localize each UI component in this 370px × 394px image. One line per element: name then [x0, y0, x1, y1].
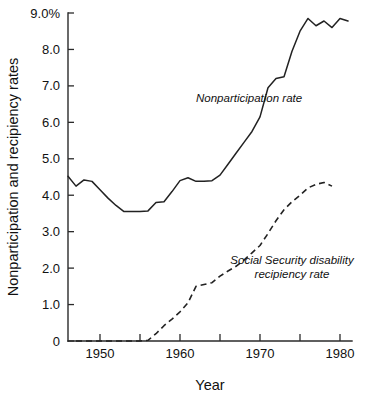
- line-chart-svg: Nonparticipation and recipiency rates Ye…: [0, 0, 370, 394]
- recipiency-rate-label-line2: recipiency rate: [255, 268, 330, 280]
- x-axis-title: Year: [195, 377, 224, 393]
- y-tick-label: 6.0: [42, 115, 60, 130]
- series-nonparticipation-rate: [68, 18, 348, 211]
- y-tick-label: 1.0: [42, 297, 60, 312]
- y-tick-label: 5.0: [42, 151, 60, 166]
- x-axis-tick-labels: 1950196019701980: [86, 346, 355, 361]
- y-tick-label: 7.0: [42, 78, 60, 93]
- x-tick-label: 1960: [166, 346, 195, 361]
- y-axis-tick-labels: 9.0%8.07.06.05.04.03.02.01.00: [30, 6, 60, 349]
- y-tick-label: 0: [53, 334, 60, 349]
- recipiency-rate-label-line1: Social Security disability: [230, 254, 355, 266]
- x-tick-label: 1970: [246, 346, 275, 361]
- x-axis-ticks: [100, 334, 340, 341]
- y-tick-label: 4.0: [42, 188, 60, 203]
- y-tick-label: 3.0: [42, 224, 60, 239]
- y-tick-label: 2.0: [42, 261, 60, 276]
- y-tick-label: 9.0%: [30, 6, 60, 21]
- x-tick-label: 1950: [86, 346, 115, 361]
- y-axis-title: Nonparticipation and recipiency rates: [5, 58, 21, 297]
- y-tick-label: 8.0: [42, 42, 60, 57]
- nonparticipation-rate-label: Nonparticipation rate: [196, 92, 302, 104]
- chart-figure: Nonparticipation and recipiency rates Ye…: [0, 0, 370, 394]
- x-tick-label: 1980: [326, 346, 355, 361]
